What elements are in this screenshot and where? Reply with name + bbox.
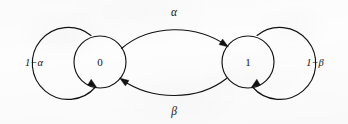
transition-0-to-1-label: α <box>171 6 178 18</box>
state-node-0-label: 0 <box>97 56 103 68</box>
transition-0-to-1-arc <box>122 30 227 49</box>
transition-1-to-0-arc <box>122 79 227 96</box>
markov-chain-figure: 0 1 1−α 1−β α β <box>0 0 348 124</box>
transition-1-to-0-label: β <box>170 105 177 118</box>
transition-1-to-0-arrowhead <box>120 78 129 86</box>
self-loop-1-label: 1−β <box>306 57 324 68</box>
self-loop-0-label: 1−α <box>25 57 43 68</box>
state-transition-diagram: 0 1 1−α 1−β α β <box>0 0 348 124</box>
state-node-1-label: 1 <box>245 56 251 68</box>
